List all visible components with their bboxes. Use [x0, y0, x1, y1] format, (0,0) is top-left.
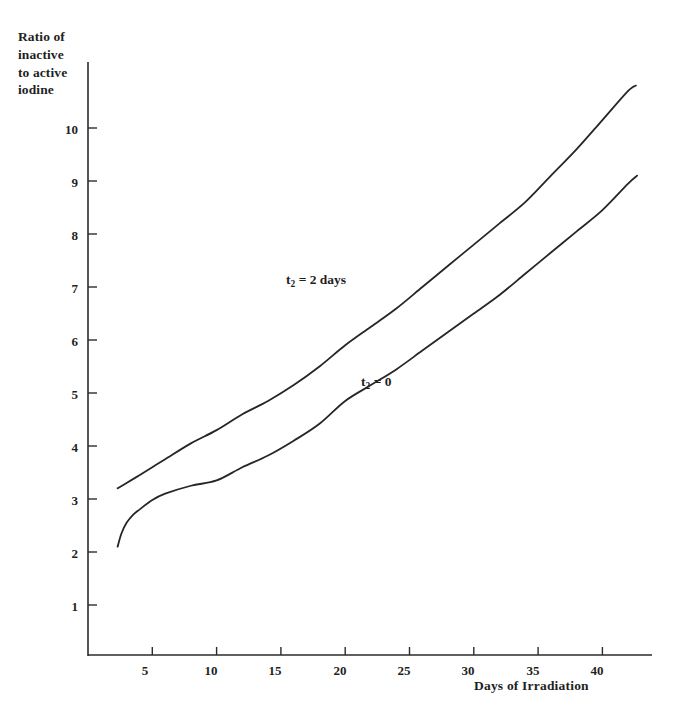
series-line-t2-0 [118, 176, 638, 547]
axes [88, 62, 652, 656]
y-axis-ticks [88, 128, 97, 605]
x-axis-ticks [152, 647, 602, 655]
plot-area [0, 0, 678, 726]
series-line-t2-2days [118, 86, 636, 489]
chart-figure: Ratio of inactive to active iodine Days … [0, 0, 678, 726]
